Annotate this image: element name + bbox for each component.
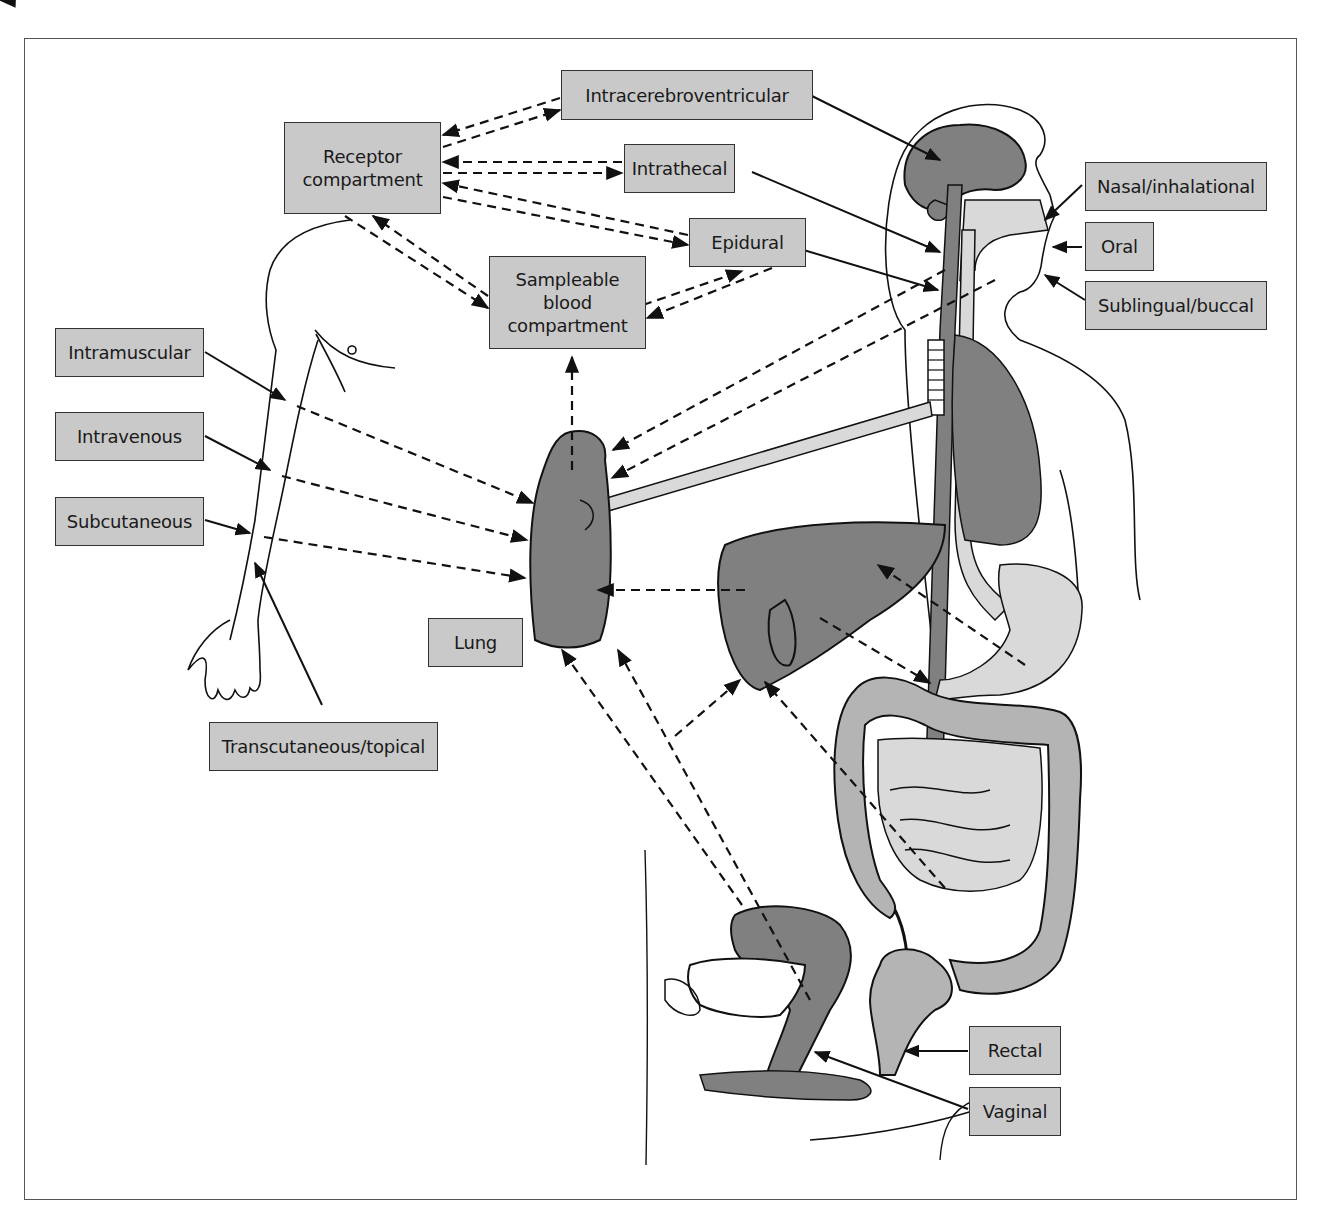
lung-icon: [530, 431, 611, 647]
label-epidural: Epidural: [689, 218, 806, 267]
right-lung-icon: [952, 335, 1041, 545]
label-nasal-inhalational: Nasal/inhalational: [1085, 162, 1267, 211]
label-intramuscular: Intramuscular: [55, 328, 204, 377]
label-intrathecal: Intrathecal: [624, 144, 735, 193]
label-intracerebroventricular: Intracerebroventricular: [561, 70, 813, 120]
label-transcutaneous-topical: Transcutaneous/topical: [209, 722, 438, 771]
label-sublingual-buccal: Sublingual/buccal: [1085, 281, 1267, 330]
arm-outline-icon: [188, 220, 395, 699]
label-vaginal: Vaginal: [969, 1087, 1061, 1136]
liver-icon: [718, 522, 945, 690]
rectum-icon: [870, 949, 952, 1075]
bladder-icon: [688, 959, 805, 1017]
blood-compartment-box: Sampleable blood compartment: [489, 256, 646, 349]
label-lung: Lung: [428, 618, 523, 667]
stomach-icon: [935, 564, 1082, 700]
small-intestine-icon: [878, 738, 1042, 891]
receptor-compartment-box: Receptor compartment: [284, 122, 441, 214]
label-intravenous: Intravenous: [55, 412, 204, 461]
label-rectal: Rectal: [969, 1026, 1061, 1075]
label-oral: Oral: [1085, 222, 1154, 271]
brain-icon: [904, 125, 1025, 210]
label-subcutaneous: Subcutaneous: [55, 497, 204, 546]
